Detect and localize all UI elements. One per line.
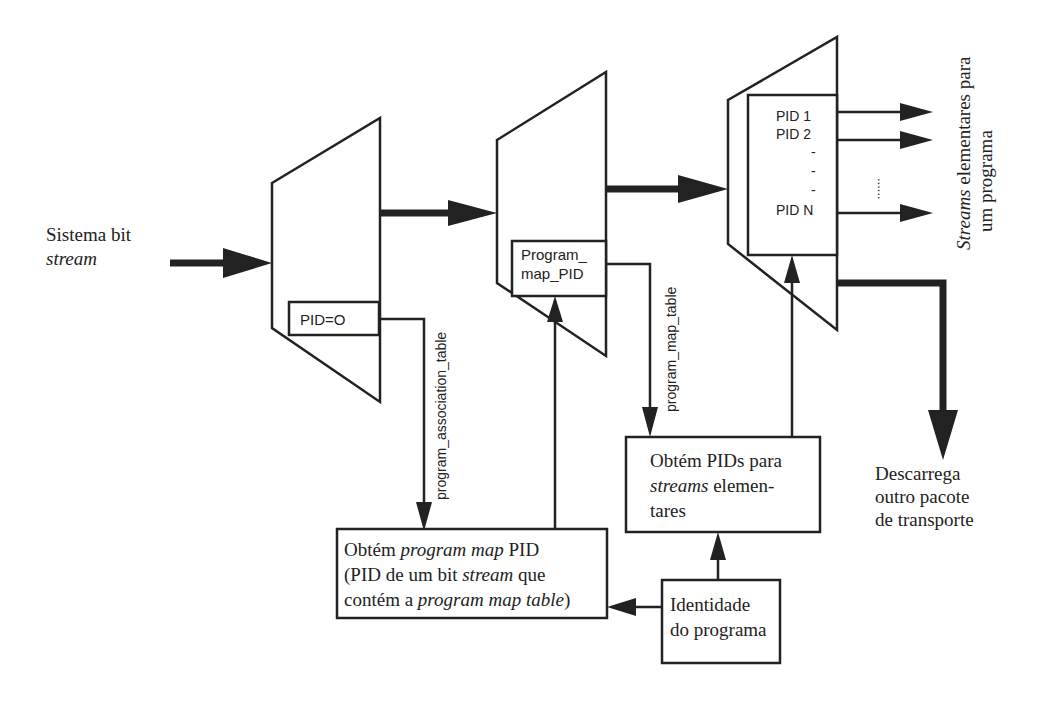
- output-arrows: ......: [837, 103, 933, 222]
- get-pmt-text: PID: [504, 539, 539, 560]
- pid-dash-3: -: [811, 182, 816, 198]
- arrow-progid-to-getpids: [710, 532, 726, 580]
- transport-stream-demux-diagram: Sistema bit stream PID=O Program_ map_PI…: [0, 0, 1054, 702]
- input-label-line1: Sistema bit: [46, 224, 132, 245]
- pmt-label: program_map_table: [663, 286, 679, 412]
- feedback-to-demux3: [784, 255, 800, 437]
- program-identity-line1: Identidade: [670, 594, 750, 615]
- pmt-connector: program_map_table: [606, 264, 679, 437]
- get-pids-line1: Obtém PIDs para: [650, 450, 782, 471]
- get-pmt-text: contém a: [344, 589, 418, 610]
- pid-zero-label: PID=O: [300, 311, 345, 328]
- discard-label-line2: outro pacote: [875, 486, 969, 507]
- get-pmt-text: stream: [462, 564, 513, 585]
- input-label-line2: stream: [46, 248, 97, 269]
- discard-label-line3: de transporte: [875, 509, 974, 530]
- input-arrow: [170, 248, 272, 278]
- pid-1: PID 1: [776, 108, 811, 124]
- get-pids-italic: streams: [650, 475, 708, 496]
- arrow-progid-to-getpmt: [607, 598, 662, 616]
- get-pmt-text: program map: [398, 539, 503, 560]
- get-pids-line3: tares: [650, 500, 686, 521]
- output-label: Streams elementares para um programa: [953, 56, 996, 250]
- program-identity-line2: do programa: [670, 619, 767, 640]
- feedback-to-demux2: [547, 296, 563, 529]
- output-label-line2: um programa: [975, 130, 996, 232]
- svg-text:Streams elementares para: Streams elementares para: [953, 56, 974, 250]
- svg-text:contém a program map table): contém a program map table): [344, 589, 570, 611]
- ellipsis: ......: [875, 178, 890, 200]
- pid-dash-1: -: [811, 144, 816, 160]
- get-pmt-text: (PID de um bit: [344, 564, 462, 586]
- output-label-italic: Streams: [953, 189, 974, 250]
- arrow-demux1-to-demux2: [380, 200, 497, 226]
- get-pmt-pid-box: Obtém program map PID (PID de um bit str…: [337, 529, 607, 618]
- discard-label-line1: Descarrega: [875, 463, 961, 484]
- pat-connector: program_association_table: [380, 319, 449, 531]
- svg-text:streams elemen-: streams elemen-: [650, 475, 774, 496]
- program-map-pid-label-1: Program_: [521, 246, 588, 263]
- demux-3: PID 1 PID 2 - - - PID N: [728, 37, 837, 330]
- pid-2: PID 2: [776, 126, 811, 142]
- get-pmt-text: que: [513, 564, 545, 585]
- svg-text:Obtém program map PID: Obtém program map PID: [344, 539, 539, 560]
- program-map-pid-label-2: map_PID: [521, 265, 584, 282]
- discard-arrow: [837, 283, 958, 460]
- output-label-rest: elementares para: [953, 56, 974, 189]
- get-pmt-text: ): [564, 589, 570, 611]
- pid-n: PID N: [776, 202, 813, 218]
- pat-label: program_association_table: [433, 332, 449, 500]
- get-pmt-text: program map table: [416, 589, 564, 610]
- demux-1: PID=O: [272, 118, 380, 402]
- pid-dash-2: -: [811, 163, 816, 179]
- program-identity-box: Identidade do programa: [662, 580, 780, 663]
- arrow-demux2-to-demux3: [606, 175, 728, 203]
- get-pmt-text: Obtém: [344, 539, 400, 560]
- get-pids-box: Obtém PIDs para streams elemen- tares: [626, 437, 820, 532]
- svg-text:(PID de um bit stream que: (PID de um bit stream que: [344, 564, 545, 586]
- get-pids-rest: elemen-: [708, 475, 774, 496]
